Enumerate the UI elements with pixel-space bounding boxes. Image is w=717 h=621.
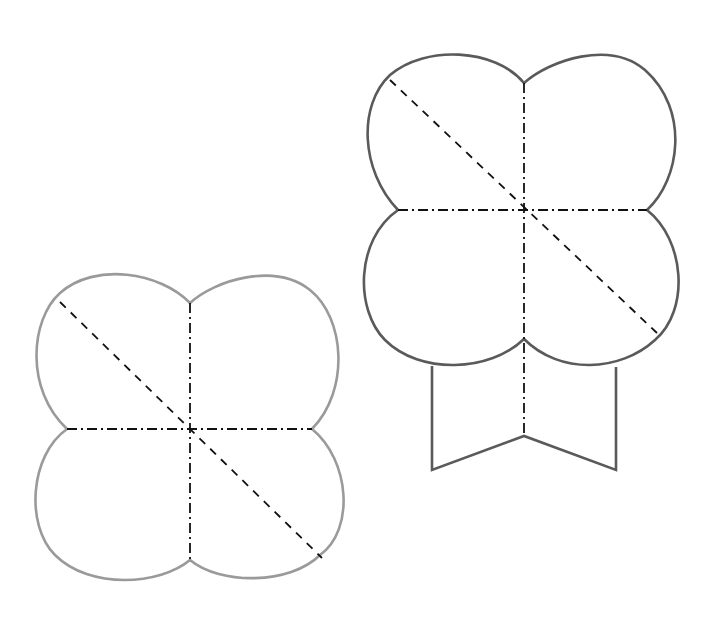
clover-with-tab-figure	[364, 54, 679, 470]
clover-figure	[35, 274, 343, 580]
clover-diagonal-fold	[60, 302, 322, 558]
diagram-canvas	[0, 0, 717, 621]
